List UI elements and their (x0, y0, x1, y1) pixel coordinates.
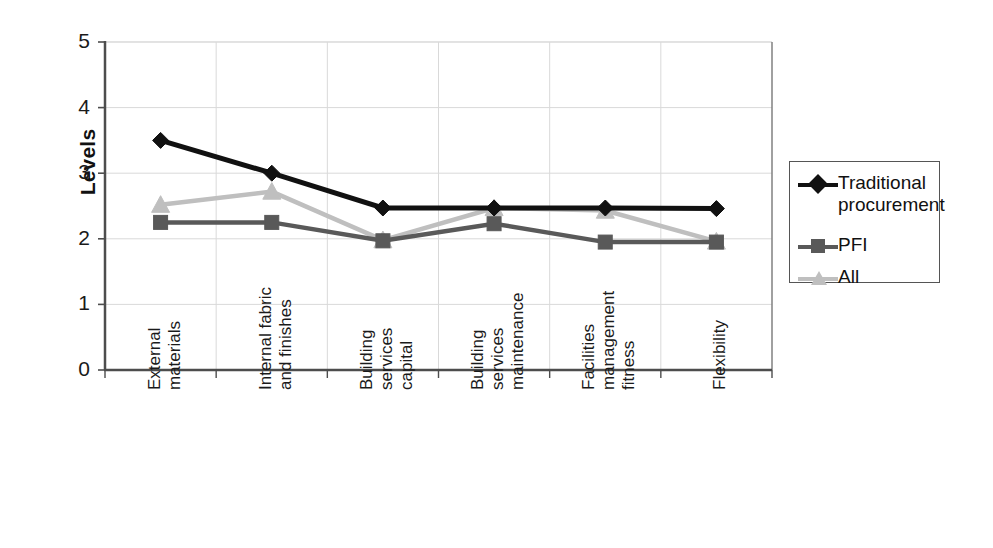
x-axis-tick-label: Buildingservicescapital (357, 328, 417, 390)
legend-label: Traditional procurement (838, 172, 945, 216)
y-axis-tick-label: 5 (60, 29, 90, 53)
data-point-marker-square (487, 217, 501, 231)
data-point-marker-diamond (153, 132, 169, 148)
legend-item[interactable]: PFI (798, 234, 868, 257)
data-point-marker-square (376, 234, 390, 248)
chart-legend: Traditional procurementPFIAll (789, 161, 940, 283)
line-chart: Levels 543210 ExternalmaterialsInternal … (0, 0, 993, 548)
legend-item[interactable]: All (798, 266, 859, 289)
legend-marker-diamond-icon (798, 173, 838, 195)
data-point-marker-square (598, 235, 612, 249)
x-axis-tick-label: Flexibility (710, 320, 730, 390)
x-axis-tick-label: Externalmaterials (145, 321, 185, 390)
y-axis-tick-label: 0 (60, 357, 90, 381)
x-axis-tick-label: Buildingservicesmaintenance (468, 293, 528, 390)
data-point-marker-square (709, 235, 723, 249)
y-axis-tick-label: 2 (60, 226, 90, 250)
data-point-marker-diamond (264, 165, 280, 181)
data-point-marker-square (154, 215, 168, 229)
y-axis-tick-label: 1 (60, 291, 90, 315)
legend-label: PFI (838, 234, 868, 256)
legend-marker-square-icon (798, 235, 838, 257)
data-point-marker-square (265, 215, 279, 229)
y-axis-tick-label: 4 (60, 95, 90, 119)
y-axis-tick-label: 3 (60, 160, 90, 184)
x-axis-tick-label: Facilitiesmanagementfitness (579, 291, 639, 390)
data-point-marker-diamond (708, 201, 724, 217)
legend-item[interactable]: Traditional procurement (798, 172, 945, 216)
legend-label: All (838, 266, 859, 288)
x-axis-tick-label: Internal fabricand finishes (256, 287, 296, 390)
data-point-marker-diamond (375, 200, 391, 216)
legend-marker-triangle-icon (798, 267, 838, 289)
